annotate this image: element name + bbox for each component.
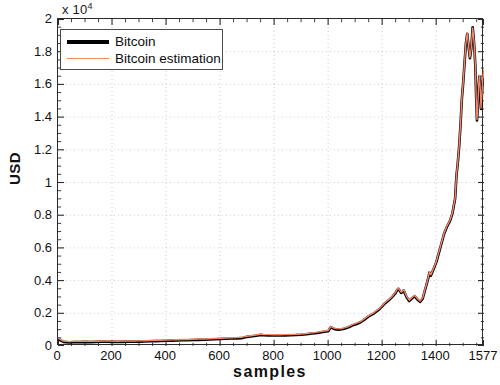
y-axis-tick-label: 1.6 bbox=[2, 77, 52, 90]
data-series-layer bbox=[58, 27, 484, 342]
y-axis-exponent: x 104 bbox=[62, 1, 93, 17]
x-axis-tick-label: 200 bbox=[81, 349, 141, 362]
y-axis-tick-label: 0.6 bbox=[2, 241, 52, 254]
x-axis-tick-label: 1200 bbox=[351, 349, 411, 362]
y-axis-label: USD bbox=[6, 139, 23, 199]
series-line bbox=[58, 28, 484, 342]
y-axis-tick-label: 0.2 bbox=[2, 306, 52, 319]
legend-item-bitcoin-estimation[interactable]: Bitcoin estimation bbox=[61, 50, 222, 67]
x-axis-tick-label: 1000 bbox=[297, 349, 357, 362]
legend-line-icon-bitcoin-estimation bbox=[67, 53, 109, 64]
figure-canvas: x 104 USD 00.20.40.60.811.21.41.61.82 02… bbox=[0, 0, 500, 385]
x-axis-tick-label: 1577 bbox=[453, 349, 500, 362]
y-axis-exponent-prefix: x 10 bbox=[62, 2, 87, 17]
y-axis-tick-label: 0.4 bbox=[2, 274, 52, 287]
x-axis-tick-label: 0 bbox=[27, 349, 87, 362]
y-axis-tick-label: 2 bbox=[2, 12, 52, 25]
y-axis-exponent-power: 4 bbox=[87, 1, 92, 11]
y-axis-tick-label: 0.8 bbox=[2, 208, 52, 221]
legend-label-bitcoin: Bitcoin bbox=[115, 35, 156, 49]
y-axis-tick-label: 0 bbox=[2, 339, 52, 352]
y-axis-tick-label: 1.8 bbox=[2, 45, 52, 58]
chart-legend: Bitcoin Bitcoin estimation bbox=[60, 29, 223, 70]
legend-label-bitcoin-estimation: Bitcoin estimation bbox=[115, 52, 221, 66]
x-axis-label: samples bbox=[57, 363, 483, 381]
legend-item-bitcoin[interactable]: Bitcoin bbox=[61, 33, 222, 50]
series-line bbox=[58, 27, 484, 342]
x-axis-tick-label: 600 bbox=[189, 349, 249, 362]
y-axis-tick-label: 1.4 bbox=[2, 110, 52, 123]
x-axis-tick-label: 400 bbox=[135, 349, 195, 362]
legend-line-icon-bitcoin bbox=[67, 36, 109, 47]
x-axis-tick-label: 800 bbox=[243, 349, 303, 362]
x-axis-tick-label: 1400 bbox=[405, 349, 465, 362]
